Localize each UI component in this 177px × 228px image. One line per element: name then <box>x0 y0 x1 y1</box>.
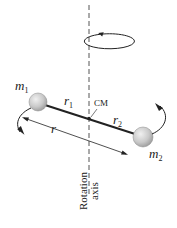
cm-leader-line <box>91 109 97 117</box>
center-of-mass-point <box>87 117 91 121</box>
label-m2: m2 <box>149 146 162 163</box>
rotating-dumbbell-diagram: m1 r1 CM r2 r m2 Rotation axis <box>0 0 177 228</box>
label-cm: CM <box>94 98 108 108</box>
mass-2-ball <box>133 127 153 147</box>
rotation-axis-label: Rotation axis <box>77 172 100 210</box>
label-r1: r1 <box>64 93 73 110</box>
label-r2: r2 <box>113 112 122 129</box>
label-r: r <box>51 121 57 136</box>
mass-2-motion-arrow <box>152 103 166 134</box>
mass-1-motion-arrow <box>17 108 31 135</box>
mass-1-ball <box>29 93 47 111</box>
rotation-direction-icon <box>84 31 134 49</box>
label-m1: m1 <box>15 78 28 95</box>
svg-text:axis: axis <box>88 182 100 200</box>
